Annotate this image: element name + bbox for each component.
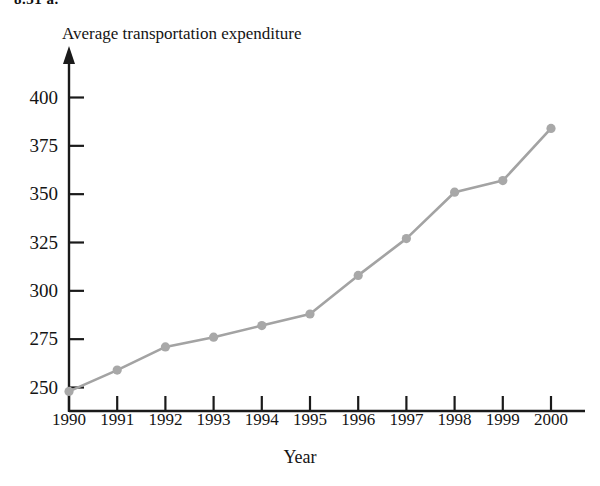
y-axis-tick-label: 300 bbox=[12, 280, 58, 302]
y-axis-tick-label: 400 bbox=[12, 87, 58, 109]
data-point-markers bbox=[64, 124, 555, 396]
data-point-marker bbox=[64, 387, 73, 396]
data-line-series bbox=[69, 128, 551, 391]
data-point-marker bbox=[257, 321, 266, 330]
data-point-marker bbox=[354, 271, 363, 280]
y-axis-arrow-icon bbox=[63, 46, 75, 64]
y-axis-tick-label: 250 bbox=[12, 377, 58, 399]
x-axis-title: Year bbox=[0, 447, 600, 468]
data-point-marker bbox=[161, 342, 170, 351]
data-point-marker bbox=[450, 188, 459, 197]
data-point-marker bbox=[209, 333, 218, 342]
y-axis-tick-label: 275 bbox=[12, 328, 58, 350]
x-axis-ticks bbox=[69, 396, 551, 411]
data-point-marker bbox=[402, 234, 411, 243]
data-point-marker bbox=[305, 309, 314, 318]
data-point-marker bbox=[546, 124, 555, 133]
y-axis-tick-label: 325 bbox=[12, 232, 58, 254]
y-axis-tick-label: 350 bbox=[12, 183, 58, 205]
y-axis-tick-label: 375 bbox=[12, 135, 58, 157]
y-axis-ticks bbox=[69, 98, 84, 388]
data-point-marker bbox=[113, 366, 122, 375]
x-axis-tick-label: 2000 bbox=[522, 410, 580, 430]
chart-page: 8.31 a. Average transportation expenditu… bbox=[0, 0, 600, 486]
data-point-marker bbox=[498, 176, 507, 185]
